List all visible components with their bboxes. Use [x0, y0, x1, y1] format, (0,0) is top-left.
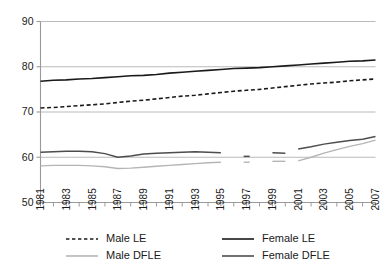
legend-label-female-dfle: Female DFLE [262, 249, 330, 261]
x-tick-label-1999: 1999 [267, 188, 278, 211]
series-line-female-le-1 [41, 60, 376, 81]
y-tick-label-80: 80 [22, 60, 34, 72]
series-line-male-dfle-5 [298, 140, 375, 161]
x-tick-label-1983: 1983 [61, 188, 72, 211]
y-axis-ticks: 5060708090 [22, 15, 41, 208]
x-tick-label-1993: 1993 [190, 188, 201, 211]
x-tick-label-1989: 1989 [138, 188, 149, 211]
y-tick-label-70: 70 [22, 105, 34, 117]
y-tick-label-50: 50 [22, 196, 34, 208]
chart-canvas: 5060708090 19811983198519871989199119931… [0, 0, 382, 271]
legend-label-female-le: Female LE [262, 232, 315, 244]
x-tick-label-2001: 2001 [293, 188, 304, 211]
legend-label-male-le: Male LE [106, 232, 146, 244]
x-tick-label-2007: 2007 [370, 188, 381, 211]
y-tick-label-90: 90 [22, 15, 34, 27]
x-tick-label-1987: 1987 [112, 188, 123, 211]
series-line-female-dfle-6 [41, 151, 221, 157]
gridlines [41, 22, 376, 203]
legend-item-male-dfle[interactable]: Male DFLE [66, 249, 161, 261]
legend-item-female-le[interactable]: Female LE [222, 232, 315, 244]
data-series [41, 60, 376, 169]
series-line-male-dfle-2 [41, 162, 221, 168]
x-tick-label-2003: 2003 [318, 188, 329, 211]
chart-legend: Male LEFemale LEMale DFLEFemale DFLE [66, 232, 330, 261]
x-tick-label-2005: 2005 [344, 188, 355, 211]
series-line-male-le-0 [41, 79, 376, 108]
y-tick-label-60: 60 [22, 151, 34, 163]
x-tick-label-1995: 1995 [215, 188, 226, 211]
legend-label-male-dfle: Male DFLE [106, 249, 161, 261]
legend-item-male-le[interactable]: Male LE [66, 232, 146, 244]
x-axis-ticks: 1981198319851987198919911993199519971999… [35, 188, 381, 211]
x-tick-label-1991: 1991 [164, 188, 175, 211]
life-expectancy-chart: 5060708090 19811983198519871989199119931… [0, 0, 382, 271]
legend-item-female-dfle[interactable]: Female DFLE [222, 249, 330, 261]
x-tick-label-1985: 1985 [87, 188, 98, 211]
x-tick-label-1981: 1981 [35, 188, 46, 211]
x-tick-label-1997: 1997 [241, 188, 252, 211]
